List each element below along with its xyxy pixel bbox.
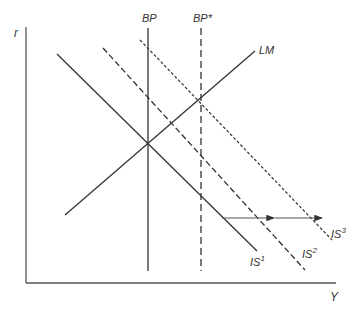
- is2-curve: IS2: [103, 48, 317, 270]
- is-lm-bp-diagram: r Y BP BP* LM IS1 IS2 IS3: [0, 0, 362, 316]
- bp-star-curve: BP*: [193, 12, 213, 271]
- is1-curve: IS1: [57, 54, 265, 268]
- axes: r Y: [14, 26, 339, 304]
- lm-label: LM: [259, 44, 275, 56]
- y-axis-label: r: [14, 26, 19, 40]
- is2-label: IS2: [302, 246, 317, 260]
- is3-label: IS3: [331, 226, 346, 240]
- is3-curve: IS3: [140, 40, 346, 240]
- lm-curve: LM: [65, 44, 275, 215]
- x-axis-label: Y: [330, 290, 339, 304]
- is1-label: IS1: [250, 254, 265, 268]
- bp-label: BP: [142, 12, 157, 24]
- bp-star-label: BP*: [193, 12, 213, 24]
